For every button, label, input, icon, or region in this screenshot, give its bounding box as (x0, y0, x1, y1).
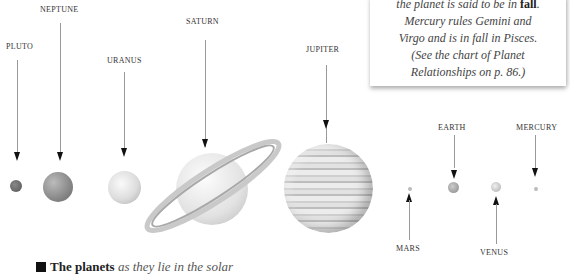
caption-text: as they lie in the solar (115, 259, 233, 274)
label-earth: EARTH (438, 123, 466, 132)
arrow-down-icon (323, 120, 329, 129)
saturn-rings (140, 130, 290, 240)
label-saturn: SATURN (186, 17, 219, 26)
callout-line-2: Mercury rules Gemini and (370, 13, 566, 30)
arrow-down-icon (532, 168, 538, 177)
callout-line-1: the planet is said to be in fall. (370, 0, 566, 13)
fall-term: fall (520, 0, 537, 11)
pointer-line-jupiter (326, 65, 327, 143)
callout-line-4: (See the chart of Planet (370, 47, 566, 64)
pointer-line-mercury (535, 135, 536, 168)
arrow-down-icon (451, 170, 457, 179)
arrow-down-icon (57, 152, 63, 161)
label-mercury: MERCURY (516, 123, 557, 132)
label-mars: MARS (396, 244, 420, 253)
label-neptune: NEPTUNE (40, 5, 79, 14)
figure-caption: The planets as they lie in the solar (36, 259, 233, 275)
pointer-line-pluto (17, 60, 18, 152)
planet-uranus (108, 171, 141, 204)
arrow-down-icon (121, 148, 127, 157)
planet-venus (491, 182, 501, 192)
pointer-line-neptune (60, 23, 61, 152)
pointer-line-venus (496, 204, 497, 244)
pointer-line-mars (409, 200, 410, 240)
planet-jupiter (284, 144, 373, 233)
planet-mercury (534, 187, 538, 191)
label-pluto: PLUTO (6, 42, 33, 51)
label-jupiter: JUPITER (306, 45, 339, 54)
arrow-down-icon (14, 152, 20, 161)
label-venus: VENUS (480, 248, 508, 257)
planet-pluto (10, 180, 22, 192)
planet-mars (408, 187, 412, 191)
callout-box: the planet is said to be in fall. Mercur… (370, 0, 566, 86)
callout-line-5: Relationships on p. 86.) (370, 64, 566, 81)
planet-neptune (43, 172, 73, 202)
callout-line-3: Virgo and is in fall in Pisces. (370, 30, 566, 47)
label-uranus: URANUS (107, 56, 142, 65)
pointer-line-earth (454, 135, 455, 168)
pointer-line-uranus (124, 72, 125, 148)
planet-earth (448, 182, 459, 193)
caption-title: The planets (50, 259, 115, 274)
square-bullet-icon (36, 262, 46, 272)
